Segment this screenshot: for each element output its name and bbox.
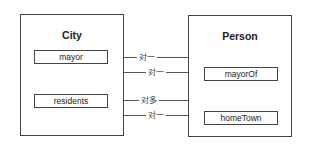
person-field-mayorOf: mayorOf bbox=[204, 67, 278, 81]
person-entity: Person mayorOf homeTown bbox=[188, 15, 292, 137]
city-field-mayor: mayor bbox=[34, 50, 108, 64]
city-entity: City mayor residents bbox=[20, 14, 124, 136]
person-title: Person bbox=[189, 30, 291, 42]
city-title: City bbox=[21, 29, 123, 41]
relation-label-4: 对一 bbox=[146, 111, 166, 120]
relation-label-1: 对一 bbox=[137, 53, 157, 62]
relation-label-3: 对多 bbox=[139, 96, 159, 105]
relation-label-2: 对一 bbox=[146, 68, 166, 77]
city-field-residents: residents bbox=[34, 94, 108, 108]
person-field-homeTown: homeTown bbox=[204, 111, 278, 125]
